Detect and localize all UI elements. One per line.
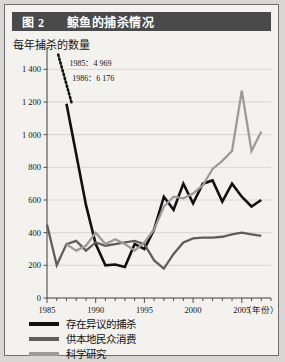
legend-item-label: 存在异议的捕杀 [66, 316, 136, 331]
legend-item-label: 科学研究 [66, 346, 106, 361]
chart-annotation: 1985：4 969 [69, 59, 111, 68]
x-axis-unit-label: （年份） [243, 305, 279, 315]
chart-plot-area: 02004006008001 0001 2001 400198519901995… [5, 5, 280, 357]
y-tick-label: 1 400 [22, 64, 41, 74]
series-line [66, 91, 261, 251]
y-tick-label: 1 200 [22, 97, 41, 107]
y-tick-label: 600 [28, 195, 41, 205]
y-tick-label: 0 [37, 293, 41, 303]
legend-swatch-icon [29, 322, 59, 326]
figure-container: 图 2 鲸鱼的捕杀情况 每年捕杀的数量 02004006008001 0001 … [4, 4, 279, 356]
line-chart: 02004006008001 0001 2001 400198519901995… [5, 5, 280, 357]
legend-item-label: 供本地民众消费 [66, 331, 136, 346]
y-tick-label: 400 [28, 228, 41, 238]
x-tick-label: 1990 [87, 305, 104, 315]
y-tick-label: 800 [28, 162, 41, 172]
x-tick-label: 2000 [185, 305, 202, 315]
legend-item[interactable]: 存在异议的捕杀 [29, 317, 136, 330]
x-tick-label: 1985 [39, 305, 56, 315]
legend-item[interactable]: 供本地民众消费 [29, 332, 136, 345]
chart-annotation: 1986：6 176 [72, 74, 114, 83]
legend-item[interactable]: 科学研究 [29, 347, 136, 360]
y-tick-label: 200 [28, 260, 41, 270]
x-tick-label: 1995 [136, 305, 153, 315]
chart-legend: 存在异议的捕杀供本地民众消费科学研究 [29, 317, 136, 360]
legend-swatch-icon [29, 337, 59, 341]
legend-swatch-icon [29, 352, 59, 356]
y-tick-label: 1 000 [22, 130, 41, 140]
